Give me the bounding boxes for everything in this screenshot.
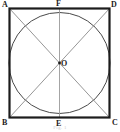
figure-canvas	[0, 0, 120, 132]
center-label-o: O	[61, 60, 67, 68]
vertex-label-d: D	[111, 1, 117, 9]
geometry-figure: A D B C F E O Fig. 1	[0, 0, 120, 132]
vertex-label-a: A	[2, 1, 8, 9]
midpoint-label-f: F	[56, 0, 61, 8]
figure-caption: Fig. 1	[0, 125, 120, 131]
